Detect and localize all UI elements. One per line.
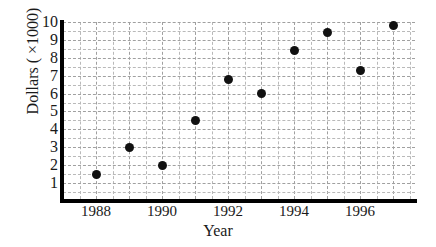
gridline-horizontal (63, 49, 415, 50)
scatter-chart-figure: 12345678910 19881990199219941996 Dollars… (0, 0, 436, 247)
gridline-horizontal (63, 94, 415, 95)
gridline-horizontal (63, 31, 415, 32)
data-point (323, 28, 332, 37)
gridline-horizontal (63, 165, 415, 166)
y-tick-label: 3 (28, 139, 58, 155)
gridline-horizontal (63, 138, 415, 139)
x-tick-label: 1994 (279, 203, 309, 220)
x-axis-title: Year (0, 222, 436, 240)
gridline-horizontal (63, 22, 415, 23)
y-tick-label: 2 (28, 157, 58, 173)
data-point (191, 116, 200, 125)
gridline-horizontal (63, 156, 415, 157)
data-point (257, 89, 266, 98)
gridline-horizontal (63, 103, 415, 104)
x-tick-label: 1996 (345, 203, 375, 220)
y-axis-line (60, 20, 64, 203)
gridline-horizontal (63, 40, 415, 41)
gridline-horizontal (63, 76, 415, 77)
data-point (356, 66, 365, 75)
gridline-horizontal (63, 183, 415, 184)
data-point (92, 170, 101, 179)
gridline-horizontal (63, 192, 415, 193)
gridline-horizontal (63, 120, 415, 121)
plot-area (63, 22, 415, 199)
gridline-horizontal (63, 129, 415, 130)
gridline-horizontal (63, 58, 415, 59)
y-axis-title: Dollars ( ×1000) (24, 0, 42, 141)
x-tick-label: 1990 (147, 203, 177, 220)
data-point (389, 21, 398, 30)
x-tick-label: 1992 (213, 203, 243, 220)
data-point (125, 143, 134, 152)
data-point (224, 75, 233, 84)
gridline-horizontal (63, 111, 415, 112)
data-point (290, 46, 299, 55)
x-tick-label: 1988 (81, 203, 111, 220)
data-point (158, 161, 167, 170)
gridline-horizontal (63, 174, 415, 175)
y-tick-label: 1 (28, 175, 58, 191)
gridline-horizontal (63, 147, 415, 148)
gridline-horizontal (63, 85, 415, 86)
